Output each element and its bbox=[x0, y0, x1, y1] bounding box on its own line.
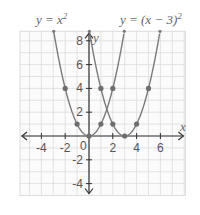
curve-arrow bbox=[123, 30, 126, 33]
data-point bbox=[98, 122, 103, 127]
y-axis-label: y bbox=[91, 30, 99, 45]
x-tick-label: -2 bbox=[60, 141, 71, 155]
grid bbox=[20, 31, 185, 195]
x-tick-label: 2 bbox=[109, 141, 116, 155]
data-point bbox=[110, 122, 115, 127]
data-point bbox=[98, 86, 103, 91]
data-point bbox=[146, 86, 151, 91]
y-tick-label: 8 bbox=[76, 34, 83, 48]
y-tick-label: -2 bbox=[72, 153, 83, 167]
data-point bbox=[110, 86, 115, 91]
x-axis-label: x bbox=[179, 119, 186, 134]
curve-arrow bbox=[158, 30, 161, 33]
data-point bbox=[75, 122, 80, 127]
x-tick-label: 6 bbox=[157, 141, 164, 155]
data-point bbox=[134, 122, 139, 127]
y-tick-label: 4 bbox=[76, 81, 83, 95]
y-tick-label: 6 bbox=[76, 58, 83, 72]
y-tick-label: -4 bbox=[72, 177, 83, 191]
series-label-shifted: y = (x − 3)2 bbox=[118, 11, 182, 27]
origin-label: 0 bbox=[80, 139, 87, 153]
x-tick-label: -4 bbox=[36, 141, 47, 155]
x-tick-label: 4 bbox=[133, 141, 140, 155]
curve-arrow bbox=[88, 30, 91, 33]
data-point bbox=[63, 86, 68, 91]
curve-arrow bbox=[52, 30, 55, 33]
y-tick-label: 2 bbox=[76, 105, 83, 119]
series-label-x-squared: y = x2 bbox=[34, 11, 68, 27]
data-point bbox=[122, 133, 127, 138]
chart: -4-2246-4-22468 x y 0 y = x2 y = (x − 3)… bbox=[0, 0, 200, 215]
data-point bbox=[86, 133, 91, 138]
